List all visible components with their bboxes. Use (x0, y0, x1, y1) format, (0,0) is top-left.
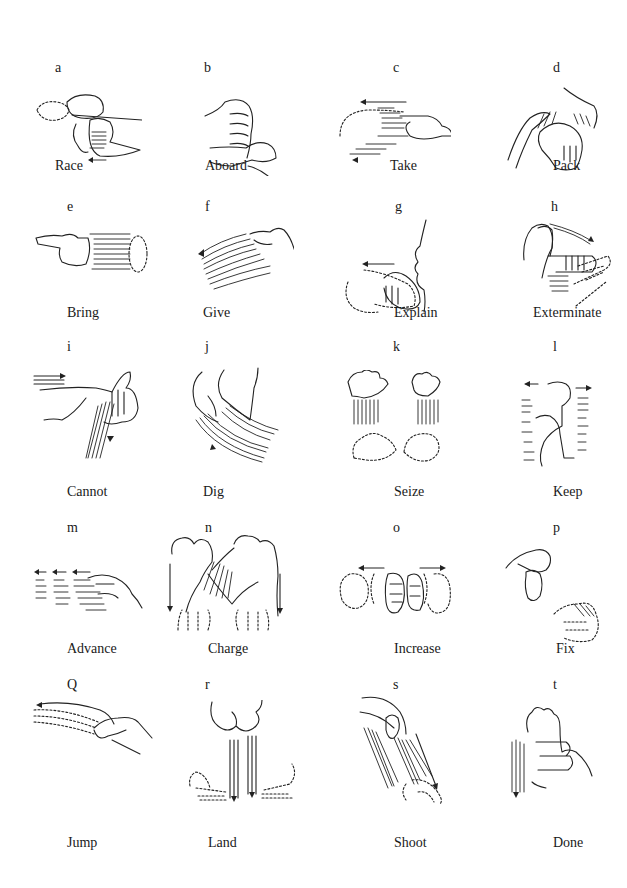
increase-gesture-illustration (334, 562, 454, 622)
jump-gesture-illustration (30, 700, 155, 760)
keep-gesture-illustration (520, 378, 600, 468)
seize-gesture-illustration (340, 370, 460, 470)
gesture-letter-g: g (395, 200, 402, 214)
fix-gesture-illustration (504, 544, 604, 644)
bring-gesture-illustration (34, 226, 149, 276)
gesture-letter-b: b (204, 61, 211, 75)
gesture-letter-d: d (553, 61, 560, 75)
shoot-gesture-illustration (358, 694, 458, 804)
gesture-letter-p: p (553, 521, 560, 535)
gesture-letter-o: o (393, 521, 400, 535)
gesture-letter-e: e (67, 200, 73, 214)
gesture-letter-i: i (67, 340, 71, 354)
gesture-letter-k: k (393, 340, 400, 354)
gesture-label-exterminate: Exterminate (533, 306, 601, 320)
advance-gesture-illustration (30, 566, 145, 626)
gesture-letter-h: h (551, 200, 558, 214)
dig-gesture-illustration (186, 366, 286, 466)
gesture-label-keep: Keep (553, 485, 583, 499)
give-gesture-illustration (194, 226, 294, 296)
gesture-label-take: Take (390, 159, 417, 173)
gesture-letter-c: c (393, 61, 399, 75)
charge-gesture-illustration (164, 534, 289, 634)
gesture-letter-n: n (205, 521, 212, 535)
land-gesture-illustration (186, 700, 306, 810)
done-gesture-illustration (510, 706, 600, 806)
gesture-label-bring: Bring (67, 306, 99, 320)
gesture-letter-a: a (55, 61, 61, 75)
gesture-label-done: Done (553, 836, 583, 850)
exterminate-gesture-illustration (518, 220, 618, 312)
gesture-label-fix: Fix (556, 642, 575, 656)
gesture-label-aboard: Aboard (205, 159, 247, 173)
gesture-label-give: Give (203, 306, 230, 320)
take-gesture-illustration (336, 96, 451, 166)
explain-gesture-illustration (340, 218, 440, 318)
gesture-letter-s: s (393, 678, 398, 692)
gesture-label-jump: Jump (67, 836, 97, 850)
gesture-label-explain: Explain (394, 306, 438, 320)
gesture-label-shoot: Shoot (394, 836, 427, 850)
cannot-gesture-illustration (30, 362, 145, 462)
gesture-label-pack: Pack (553, 159, 580, 173)
gesture-label-advance: Advance (67, 642, 117, 656)
gesture-label-cannot: Cannot (67, 485, 107, 499)
gesture-letter-j: j (205, 340, 209, 354)
race-gesture-illustration (32, 90, 142, 170)
gesture-label-dig: Dig (203, 485, 224, 499)
gesture-label-race: Race (55, 159, 83, 173)
gesture-letter-m: m (67, 521, 78, 535)
gesture-letter-t: t (553, 678, 557, 692)
gesture-letter-r: r (205, 678, 210, 692)
gesture-label-land: Land (208, 836, 237, 850)
gesture-letter-Q: Q (67, 678, 77, 692)
gesture-label-charge: Charge (208, 642, 248, 656)
gesture-letter-l: l (553, 340, 557, 354)
gesture-label-seize: Seize (394, 485, 424, 499)
gesture-letter-f: f (205, 200, 210, 214)
gesture-label-increase: Increase (394, 642, 441, 656)
